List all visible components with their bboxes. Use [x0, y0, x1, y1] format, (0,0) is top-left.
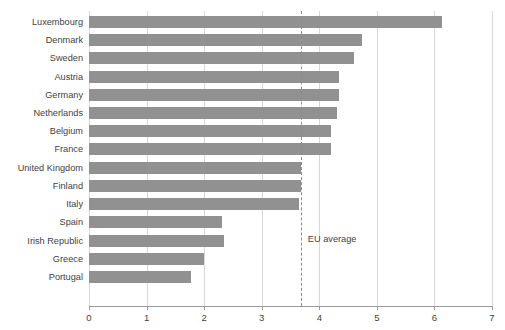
category-label: Finland	[0, 180, 83, 192]
bar	[89, 235, 224, 247]
bar-row	[89, 250, 492, 268]
category-label: Spain	[0, 216, 83, 228]
bar-row	[89, 86, 492, 104]
x-tick-label: 6	[419, 312, 449, 323]
category-label: Germany	[0, 89, 83, 101]
x-tick-mark	[377, 306, 378, 310]
x-tick-mark	[434, 306, 435, 310]
eu-average-label: EU average	[308, 234, 357, 245]
bar	[89, 198, 299, 210]
x-axis-line	[89, 306, 492, 307]
category-label: Sweden	[0, 52, 83, 64]
x-tick-label: 1	[132, 312, 162, 323]
x-tick-label: 2	[189, 312, 219, 323]
category-label: Austria	[0, 71, 83, 83]
category-label: Luxembourg	[0, 16, 83, 28]
bar-row	[89, 31, 492, 49]
bar	[89, 271, 191, 283]
category-label: United Kingdom	[0, 162, 83, 174]
bar	[89, 216, 222, 228]
bar-row	[89, 122, 492, 140]
gridline	[492, 11, 493, 306]
bar	[89, 143, 331, 155]
x-tick-label: 4	[304, 312, 334, 323]
bar-row	[89, 195, 492, 213]
x-tick-mark	[89, 306, 90, 310]
bar	[89, 253, 204, 265]
category-label: France	[0, 143, 83, 155]
category-label: Belgium	[0, 125, 83, 137]
category-label: Italy	[0, 198, 83, 210]
x-tick-mark	[492, 306, 493, 310]
bar-row	[89, 177, 492, 195]
category-label: Irish Republic	[0, 235, 83, 247]
plot-area	[89, 11, 492, 306]
x-tick-mark	[204, 306, 205, 310]
bar-row	[89, 13, 492, 31]
category-label: Denmark	[0, 34, 83, 46]
x-tick-label: 0	[74, 312, 104, 323]
bar-chart: LuxembourgDenmarkSwedenAustriaGermanyNet…	[0, 0, 505, 330]
bar	[89, 107, 337, 119]
bar-row	[89, 268, 492, 286]
bar-row	[89, 159, 492, 177]
bar-row	[89, 68, 492, 86]
x-tick-mark	[147, 306, 148, 310]
eu-average-line	[301, 11, 302, 306]
category-label: Netherlands	[0, 107, 83, 119]
bar-row	[89, 104, 492, 122]
bar	[89, 34, 362, 46]
x-tick-mark	[262, 306, 263, 310]
bar-row	[89, 49, 492, 67]
category-label: Greece	[0, 253, 83, 265]
bar	[89, 16, 442, 28]
x-tick-label: 3	[247, 312, 277, 323]
bar	[89, 180, 301, 192]
bar-row	[89, 140, 492, 158]
x-tick-label: 7	[477, 312, 505, 323]
bar	[89, 125, 331, 137]
category-label: Portugal	[0, 271, 83, 283]
x-tick-mark	[319, 306, 320, 310]
x-tick-label: 5	[362, 312, 392, 323]
bar-row	[89, 213, 492, 231]
bar	[89, 162, 301, 174]
bar-row	[89, 232, 492, 250]
bar	[89, 52, 354, 64]
